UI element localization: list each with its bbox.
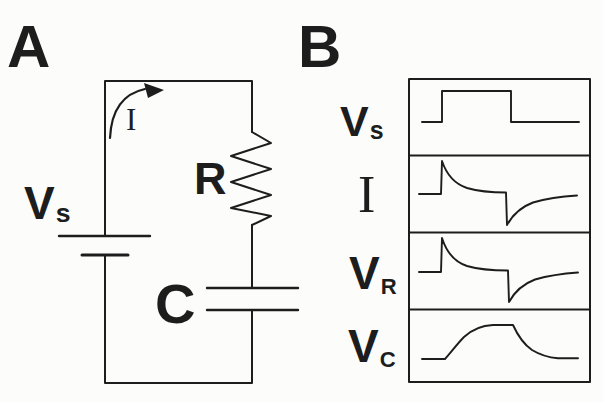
trace-i-label-main: I — [358, 166, 375, 223]
figure-rc-circuit: A B Vs I R C Vs I VR VC — [0, 0, 603, 402]
resistor-label: R — [194, 156, 227, 201]
trace-vr-label-main: V — [349, 247, 380, 299]
resistor-zigzag — [231, 132, 271, 225]
trace-vs-waveform — [422, 91, 579, 122]
panel-a-label: A — [7, 17, 50, 77]
current-label: I — [126, 104, 136, 135]
trace-vs-label-main: V — [340, 97, 369, 145]
voltage-source-label: Vs — [24, 180, 71, 227]
trace-vc-label-main: V — [348, 320, 379, 372]
trace-vr-label-sub: R — [381, 274, 397, 299]
trace-vr-label: VR — [349, 250, 397, 298]
capacitor-label: C — [155, 276, 195, 332]
trace-vs-label-sub: s — [370, 116, 384, 144]
trace-vc-label: VC — [348, 323, 396, 371]
trace-vc-waveform — [422, 325, 578, 359]
voltage-source-label-main: V — [24, 177, 55, 229]
trace-i-waveform — [419, 161, 577, 225]
panel-b-label: B — [298, 17, 341, 77]
trace-vc-label-sub: C — [380, 347, 396, 372]
scope-box — [409, 79, 590, 382]
voltage-source-label-sub: s — [56, 198, 71, 228]
trace-vs-label: Vs — [340, 100, 384, 143]
trace-vr-waveform — [419, 238, 578, 302]
current-arrow-head-icon — [144, 83, 164, 98]
trace-i-label: I — [358, 169, 376, 222]
